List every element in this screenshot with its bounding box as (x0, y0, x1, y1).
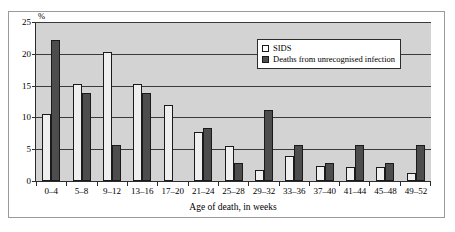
bar-infection (385, 163, 394, 181)
x-tick-label: 45–48 (370, 187, 400, 197)
y-tick-mark (32, 117, 35, 118)
bar-sids (285, 156, 294, 181)
bar-sids (316, 166, 325, 181)
bar-infection (112, 145, 121, 181)
bar-infection (82, 93, 91, 181)
x-tick-label: 13–16 (127, 187, 157, 197)
y-tick-mark (32, 54, 35, 55)
y-tick-label: 0 (27, 177, 32, 186)
x-tick-label: 0–4 (36, 187, 66, 197)
x-tick-label: 25–28 (218, 187, 248, 197)
x-tick-label: 49–52 (401, 187, 431, 197)
bar-group (66, 22, 96, 181)
bar-group (188, 22, 218, 181)
bar-sids (73, 84, 82, 181)
bar-sids (164, 105, 173, 181)
bar-group (36, 22, 66, 181)
legend-swatch-infection (262, 56, 269, 63)
bar-infection (142, 93, 151, 181)
bar-infection (416, 145, 425, 181)
bar-infection (355, 145, 364, 181)
x-tick-label: 9–12 (97, 187, 127, 197)
bar-sids (225, 146, 234, 181)
legend-item-infection: Deaths from unrecognised infection (262, 54, 395, 65)
x-tick-label: 21–24 (188, 187, 218, 197)
bar-sids (407, 173, 416, 181)
bar-group (218, 22, 248, 181)
bar-infection (234, 163, 243, 181)
legend-item-sids: SIDS (262, 43, 395, 54)
plot-wrapper: 0510152025 % 0–45–89–1213–1617–2021–2425… (35, 22, 431, 182)
y-tick-mark (32, 149, 35, 150)
y-tick-label: 20 (22, 49, 31, 58)
bar-infection (203, 128, 212, 181)
y-tick-mark (32, 181, 35, 182)
bar-group (97, 22, 127, 181)
bar-sids (133, 84, 142, 181)
bar-sids (194, 132, 203, 181)
legend-label-infection: Deaths from unrecognised infection (273, 55, 395, 64)
x-tick-label: 33–36 (279, 187, 309, 197)
bar-infection (294, 145, 303, 181)
legend-label-sids: SIDS (273, 44, 291, 53)
x-tick-label: 29–32 (249, 187, 279, 197)
chart-figure: 0510152025 % 0–45–89–1213–1617–2021–2425… (8, 11, 445, 218)
bar-group (127, 22, 157, 181)
bar-group (158, 22, 188, 181)
x-axis-labels: 0–45–89–1213–1617–2021–2425–2829–3233–36… (36, 187, 431, 197)
y-axis-unit-label: % (38, 12, 45, 21)
bar-infection (51, 40, 60, 181)
bar-sids (103, 52, 112, 181)
y-tick-mark (32, 86, 35, 87)
bar-sids (255, 170, 264, 181)
y-tick-mark (32, 22, 35, 23)
bar-group (401, 22, 431, 181)
x-tick-label: 5–8 (66, 187, 96, 197)
y-tick-label: 5 (27, 145, 32, 154)
x-tick-label: 37–40 (310, 187, 340, 197)
y-tick-label: 25 (22, 18, 31, 27)
x-axis-title: Age of death, in weeks (35, 202, 431, 212)
y-tick-label: 15 (22, 81, 31, 90)
legend-swatch-sids (262, 45, 269, 52)
bar-sids (376, 167, 385, 181)
y-tick-label: 10 (22, 113, 31, 122)
bar-sids (42, 114, 51, 181)
x-tick-label: 17–20 (158, 187, 188, 197)
chart-legend: SIDS Deaths from unrecognised infection (257, 39, 401, 69)
x-tick-label: 41–44 (340, 187, 370, 197)
bar-sids (346, 167, 355, 181)
bar-infection (264, 110, 273, 181)
bar-infection (325, 163, 334, 181)
